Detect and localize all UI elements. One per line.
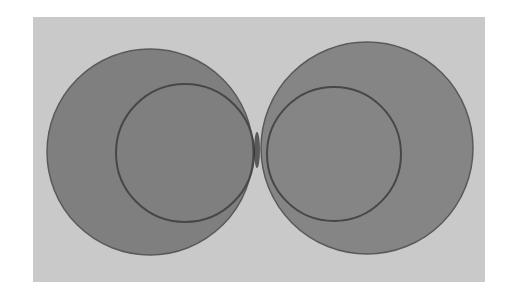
contact-point-shadow [254,132,260,168]
two-circles-diagram [0,0,512,295]
right-outer-circle [261,42,473,254]
left-outer-circle [47,49,253,255]
